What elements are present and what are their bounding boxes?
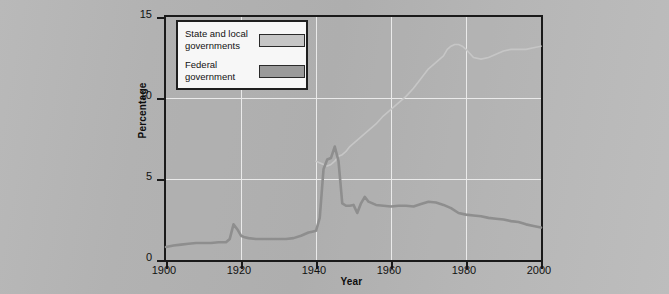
chart-legend: State and local governments Federal gove…	[176, 20, 308, 90]
chart-figure: Percentage 051015 1900192019401960198020…	[0, 0, 669, 294]
legend-label-line2: government	[185, 71, 255, 83]
legend-item-federal: Federal government	[185, 59, 305, 87]
y-tick-mark	[157, 179, 164, 181]
x-tick-label: 1980	[441, 265, 487, 276]
y-tick-label: 10	[124, 90, 152, 101]
legend-swatch-federal	[259, 65, 305, 78]
legend-label-line2: governments	[185, 40, 255, 52]
legend-label-state-local: State and local governments	[185, 28, 255, 51]
x-tick-label: 1960	[366, 265, 412, 276]
legend-label-federal: Federal government	[185, 59, 255, 82]
legend-item-state-local: State and local governments	[185, 28, 305, 56]
series-line-federal	[166, 147, 541, 247]
x-tick-label: 1920	[216, 265, 262, 276]
y-tick-mark	[157, 260, 164, 262]
y-tick-mark	[157, 98, 164, 100]
x-tick-label: 1900	[141, 265, 187, 276]
y-tick-label: 0	[124, 252, 152, 263]
x-tick-label: 1940	[291, 265, 337, 276]
x-axis-title: Year	[164, 276, 539, 287]
y-tick-label: 15	[124, 9, 152, 20]
x-tick-label: 2000	[516, 265, 562, 276]
legend-label-line1: Federal	[185, 59, 255, 71]
series-line-state-local	[316, 45, 541, 166]
y-tick-mark	[157, 17, 164, 19]
legend-label-line1: State and local	[185, 28, 255, 40]
y-tick-label: 5	[124, 171, 152, 182]
legend-swatch-state-local	[259, 34, 305, 47]
